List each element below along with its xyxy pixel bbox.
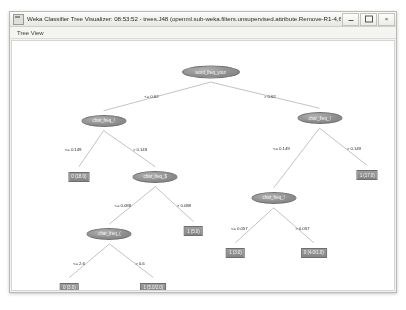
tree-node-label: char_freq_$ xyxy=(144,174,167,179)
tree-leaf-label: 1 (17.0) xyxy=(360,173,375,178)
tree-leaf[interactable]: 1 (17.0) xyxy=(357,170,378,180)
tree-leaf[interactable]: 1 (5.0) xyxy=(184,226,203,236)
tree-node[interactable]: char_freq_$ xyxy=(133,171,178,183)
tree-edge-label: > 0.057 xyxy=(295,225,309,230)
menu-item-tree-view[interactable]: Tree View xyxy=(14,29,47,37)
tree-leaf-label: 0 (18.0) xyxy=(71,174,86,179)
tree-leaf[interactable]: 1 (5.0/2.0) xyxy=(140,283,166,292)
title-bar[interactable]: Weka Classifier Tree Visualizer: 08:53:5… xyxy=(10,12,396,27)
window-title: Weka Classifier Tree Visualizer: 08:53:5… xyxy=(27,15,341,23)
tree-leaf[interactable]: 0 (4.0/1.0) xyxy=(301,248,327,258)
tree-edge xyxy=(274,128,320,188)
tree-node[interactable]: char_freq_! xyxy=(251,192,296,204)
tree-leaf-label: 1 (5.0/2.0) xyxy=(143,285,163,290)
tree-node-label: char_freq_! xyxy=(93,118,115,123)
tree-leaf-label: 1 (3.0) xyxy=(229,250,242,255)
tree-edge xyxy=(104,131,156,167)
maximize-button[interactable] xyxy=(360,13,377,26)
tree-leaf[interactable]: 0 (18.0) xyxy=(68,172,89,182)
tree-edge-label: > 0.6 xyxy=(135,260,144,265)
tree-node[interactable]: char_freq_! xyxy=(297,112,342,124)
tree-leaf[interactable]: 1 (3.0) xyxy=(226,248,245,258)
tree-canvas[interactable]: word_freq_yourchar_freq_!char_freq_!char… xyxy=(12,41,394,290)
tree-node-label: char_freq_! xyxy=(308,116,330,121)
tree-node-label: word_freq_your xyxy=(195,70,226,75)
close-button[interactable]: × xyxy=(378,13,395,26)
tree-edge-label: > 0.149 xyxy=(133,147,147,152)
tree-edge xyxy=(109,244,153,278)
tree-edge-label: > 0.149 xyxy=(347,146,361,151)
tree-edge-label: <= 0.62 xyxy=(144,93,158,98)
tree-node[interactable]: char_freq_! xyxy=(81,115,126,127)
tree-leaf-label: 0 (4.0/1.0) xyxy=(304,250,324,255)
tree-edge-label: > 0.62 xyxy=(264,93,276,98)
tree-edge-label: > 0.088 xyxy=(177,203,191,208)
tree-node-label: char_freq_! xyxy=(263,195,285,200)
tree-leaf-label: 1 (5.0) xyxy=(187,229,200,234)
tree-node[interactable]: word_freq_your xyxy=(182,66,240,79)
menu-bar: Tree View xyxy=(10,27,396,39)
tree-node-label: char_freq_( xyxy=(98,231,120,236)
tree-canvas-container[interactable]: word_freq_yourchar_freq_!char_freq_!char… xyxy=(11,40,395,291)
tree-edge-label: <= 0.149 xyxy=(65,147,82,152)
tree-edge-label: <= 0.088 xyxy=(114,203,131,208)
tree-edge-label: <= 0.149 xyxy=(273,146,290,151)
tree-leaf[interactable]: 0 (3.0) xyxy=(60,283,79,292)
tree-edge-label: <= 2.6 xyxy=(73,260,85,265)
weka-tree-visualizer-window: Weka Classifier Tree Visualizer: 08:53:5… xyxy=(9,11,397,293)
tree-edge xyxy=(79,131,104,167)
tree-node[interactable]: char_freq_( xyxy=(87,228,132,240)
tree-leaf-label: 0 (3.0) xyxy=(63,285,76,290)
app-window-icon xyxy=(13,14,24,25)
tree-edge-label: <= 0.057 xyxy=(231,225,248,230)
minimize-button[interactable] xyxy=(342,13,359,26)
close-icon: × xyxy=(385,16,389,22)
